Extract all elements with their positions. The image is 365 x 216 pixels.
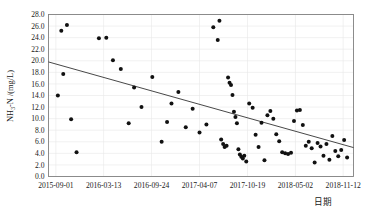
data-point	[319, 144, 323, 148]
x-tick-label: 2017-10-19	[230, 181, 266, 190]
data-point	[251, 106, 255, 110]
y-tick-label: 2.0	[35, 161, 45, 170]
data-point	[165, 120, 169, 124]
x-tick-label: 2015-09-01	[38, 181, 74, 190]
y-tick-label: 16.0	[31, 80, 44, 89]
data-point	[339, 148, 343, 152]
data-point	[225, 144, 229, 148]
data-point	[271, 117, 275, 121]
data-point	[127, 121, 131, 125]
y-tick-label: 28.0	[31, 10, 44, 19]
data-point	[336, 154, 340, 158]
data-point	[257, 145, 261, 149]
data-point	[219, 137, 223, 141]
data-point	[333, 149, 337, 153]
y-tick-label: 18.0	[31, 68, 44, 77]
data-point	[119, 67, 123, 71]
data-point	[184, 125, 188, 129]
y-tick-label: 8.0	[35, 126, 45, 135]
chart-figure: 0.02.04.06.08.010.012.014.016.018.020.02…	[0, 0, 365, 216]
x-tick-label: 2016-09-24	[134, 181, 170, 190]
y-tick-label: 20.0	[31, 56, 44, 65]
x-tick-label: 2017-04-07	[182, 181, 218, 190]
y-tick-label: 10.0	[31, 114, 44, 123]
data-point	[198, 131, 202, 135]
data-point	[139, 105, 143, 109]
data-point	[262, 158, 266, 162]
data-point	[247, 102, 251, 106]
data-point	[310, 146, 314, 150]
x-tick-labels: 2015-09-012016-03-132016-09-242017-04-07…	[38, 181, 361, 190]
y-tick-label: 6.0	[35, 137, 45, 146]
data-point	[191, 107, 195, 111]
x-tick-label: 2018-11-12	[326, 181, 361, 190]
data-point	[301, 123, 305, 127]
data-point	[254, 133, 258, 137]
y-tick-label: 12.0	[31, 103, 44, 112]
data-point	[176, 90, 180, 94]
data-point	[204, 122, 208, 126]
data-point	[274, 132, 278, 136]
data-point	[324, 142, 328, 146]
data-point	[242, 154, 246, 158]
data-point	[132, 85, 136, 89]
data-point	[160, 140, 164, 144]
data-point	[56, 94, 60, 98]
data-point	[226, 76, 230, 80]
data-point	[169, 102, 173, 106]
data-point	[244, 159, 248, 163]
svg-text:NH3-N /(mg/L): NH3-N /(mg/L)	[6, 70, 16, 122]
data-point	[230, 93, 234, 97]
y-tick-label: 22.0	[31, 45, 44, 54]
data-point	[330, 134, 334, 138]
data-point	[268, 109, 272, 113]
data-point	[321, 154, 325, 158]
data-point	[236, 147, 240, 151]
data-point	[233, 115, 237, 119]
svg-text:日期: 日期	[314, 197, 332, 207]
data-point	[235, 121, 239, 125]
y-axis-title: NH3-N /(mg/L)	[6, 70, 16, 122]
data-point	[304, 144, 308, 148]
x-tick-label: 2018-05-02	[278, 181, 314, 190]
data-point	[232, 110, 236, 114]
y-tick-labels: 0.02.04.06.08.010.012.014.016.018.020.02…	[31, 10, 44, 181]
data-point	[342, 138, 346, 142]
y-tick-label: 26.0	[31, 22, 44, 31]
x-axis-title: 日期	[314, 197, 332, 207]
data-point	[65, 23, 69, 27]
data-point	[59, 29, 63, 33]
data-point	[150, 75, 154, 79]
y-tick-label: 14.0	[31, 91, 44, 100]
data-point	[97, 36, 101, 40]
data-point	[211, 25, 215, 29]
data-point	[69, 117, 73, 121]
data-point	[345, 155, 349, 159]
y-tick-label: 4.0	[35, 149, 45, 158]
data-point	[104, 36, 108, 40]
y-tick-label: 24.0	[31, 33, 44, 42]
data-point	[298, 108, 302, 112]
data-point	[61, 72, 65, 76]
data-point	[327, 158, 331, 162]
data-point	[277, 139, 281, 143]
data-point	[111, 58, 115, 62]
data-point	[265, 113, 269, 117]
x-tick-label: 2016-03-13	[86, 181, 122, 190]
scatter-plot-svg: 0.02.04.06.08.010.012.014.016.018.020.02…	[0, 0, 365, 216]
data-point	[316, 141, 320, 145]
data-point	[307, 140, 311, 144]
data-point	[292, 119, 296, 123]
data-point	[216, 38, 220, 42]
data-point	[313, 161, 317, 165]
data-point	[229, 83, 233, 87]
data-point	[217, 19, 221, 23]
data-point	[260, 121, 264, 125]
data-point	[75, 150, 79, 154]
data-point	[289, 151, 293, 155]
